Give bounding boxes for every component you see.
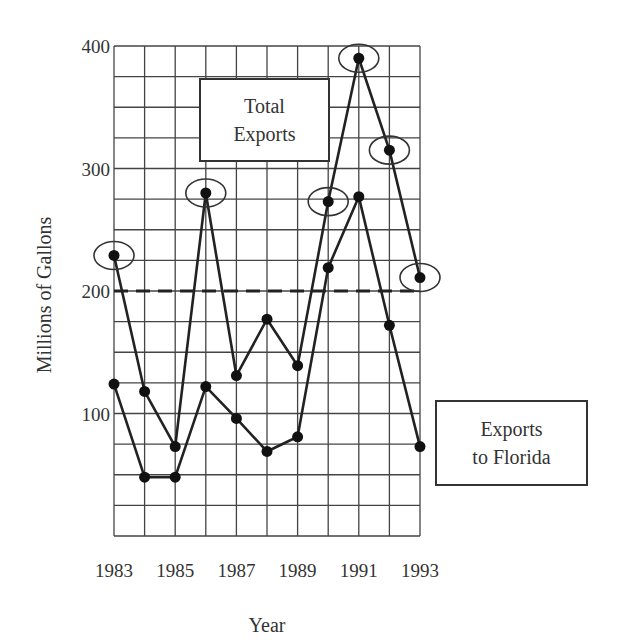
data-point — [292, 431, 303, 442]
florida-label-line2: to Florida — [437, 443, 586, 471]
data-point — [109, 379, 120, 390]
y-tick-label: 200 — [82, 281, 111, 302]
florida-label-line1: Exports — [437, 415, 586, 443]
data-point — [415, 272, 426, 283]
data-point — [139, 472, 150, 483]
data-point — [384, 145, 395, 156]
data-point — [170, 441, 181, 452]
x-tick-label: 1991 — [340, 560, 378, 581]
data-point — [231, 370, 242, 381]
data-point — [323, 196, 334, 207]
data-point — [231, 413, 242, 424]
y-tick-label: 300 — [82, 159, 111, 180]
x-tick-label: 1993 — [401, 560, 439, 581]
x-tick-label: 1989 — [279, 560, 317, 581]
y-tick-label: 100 — [82, 404, 111, 425]
data-point — [170, 472, 181, 483]
data-point — [292, 360, 303, 371]
total-exports-label: Total Exports — [199, 78, 330, 162]
data-point — [200, 188, 211, 199]
data-point — [415, 441, 426, 452]
x-axis-title: Year — [249, 614, 286, 636]
data-point — [200, 381, 211, 392]
exports-to-florida-label: Exports to Florida — [435, 400, 588, 486]
total-exports-label-line2: Exports — [201, 120, 328, 148]
data-point — [384, 320, 395, 331]
data-point — [139, 386, 150, 397]
y-tick-label: 400 — [82, 36, 111, 57]
data-point — [353, 191, 364, 202]
x-tick-label: 1983 — [95, 560, 133, 581]
total-exports-label-line1: Total — [201, 92, 328, 120]
data-point — [323, 262, 334, 273]
data-point — [353, 53, 364, 64]
x-tick-label: 1987 — [217, 560, 255, 581]
data-point — [262, 314, 273, 325]
y-axis-title: Millions of Gallons — [33, 216, 55, 373]
data-point — [109, 250, 120, 261]
data-point — [262, 446, 273, 457]
x-tick-label: 1985 — [156, 560, 194, 581]
